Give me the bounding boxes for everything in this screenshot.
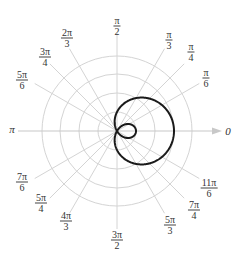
angle-label-denominator: 6 [20, 81, 25, 91]
angle-label-denominator: 4 [192, 211, 197, 221]
angle-label-denominator: 3 [167, 41, 172, 51]
grid-ray [50, 131, 117, 198]
angle-label-denominator: 6 [204, 79, 209, 89]
angle-label-denominator: 3 [168, 226, 173, 236]
fraction: π4 [187, 42, 194, 63]
angle-label-a0: 0 [225, 126, 231, 137]
angle-label-denominator: 3 [64, 222, 69, 232]
polar-plot: 0π6π4π3π22π33π45π6π7π65π44π33π25π37π411π… [0, 0, 245, 261]
polar-plot-canvas [0, 0, 245, 261]
grid-ray [117, 64, 184, 131]
grid-ray [50, 64, 117, 131]
angle-label-a45: π4 [187, 42, 194, 63]
fraction: π2 [113, 16, 120, 37]
angle-label-a60: π3 [165, 30, 172, 51]
fraction: 4π3 [60, 211, 72, 232]
angle-label-denominator: 6 [20, 183, 25, 193]
fraction: π3 [165, 30, 172, 51]
grid-ray [117, 49, 165, 131]
angle-label-a315: 7π4 [188, 200, 200, 221]
angle-label-denominator: 6 [207, 189, 212, 199]
grid-ray [117, 131, 184, 198]
fraction: 7π6 [16, 172, 28, 193]
fraction: π6 [202, 68, 209, 89]
angle-label-a30: π6 [202, 68, 209, 89]
angle-label-a120: 2π3 [61, 28, 73, 49]
angle-label-a330: 11π6 [201, 178, 218, 199]
angle-label-text: π [9, 123, 15, 135]
grid-ray [35, 131, 117, 179]
angle-label-a180: π [9, 124, 15, 135]
angle-label-a135: 3π4 [39, 47, 51, 68]
grid-ray [117, 131, 165, 213]
angle-label-a150: 5π6 [16, 70, 28, 91]
fraction: 2π3 [61, 28, 73, 49]
fraction: 3π4 [39, 47, 51, 68]
angle-label-a240: 4π3 [60, 211, 72, 232]
fraction: 3π2 [111, 230, 123, 251]
grid-ray [35, 84, 117, 132]
angle-label-denominator: 4 [39, 204, 44, 214]
arrow-head-icon [212, 128, 222, 135]
angle-label-a90: π2 [113, 16, 120, 37]
angle-label-text: 0 [225, 125, 231, 137]
angle-label-denominator: 2 [115, 241, 120, 251]
angle-label-a300: 5π3 [164, 215, 176, 236]
fraction: 5π6 [16, 70, 28, 91]
angle-label-a210: 7π6 [16, 172, 28, 193]
angle-label-a225: 5π4 [35, 193, 47, 214]
grid-ray [70, 49, 118, 131]
angle-label-denominator: 4 [189, 53, 194, 63]
angle-label-denominator: 2 [115, 27, 120, 37]
fraction: 5π4 [35, 193, 47, 214]
angle-label-denominator: 3 [65, 39, 70, 49]
fraction: 5π3 [164, 215, 176, 236]
fraction: 11π6 [201, 178, 218, 199]
grid-ray [70, 131, 118, 213]
angle-label-a270: 3π2 [111, 230, 123, 251]
fraction: 7π4 [188, 200, 200, 221]
angle-label-denominator: 4 [43, 58, 48, 68]
